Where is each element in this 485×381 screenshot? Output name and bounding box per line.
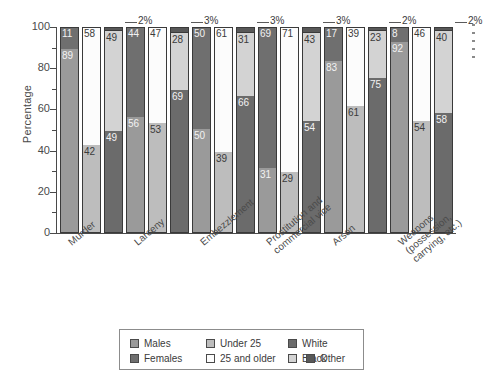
bar-value-label: 47 (150, 28, 161, 39)
bar-value-label: 61 (216, 28, 227, 39)
bar-value-label: 40 (436, 32, 447, 43)
bar-value-label: 29 (282, 173, 293, 184)
bar-value-label: 23 (370, 32, 381, 43)
bar-age: 5347 (148, 27, 167, 233)
bar-value-label: 89 (62, 50, 73, 61)
bar-value-label: 66 (238, 97, 249, 108)
bar-segment: 71 (281, 27, 298, 172)
bar-group: 891142584949 (60, 27, 123, 233)
bar-segment (303, 27, 320, 32)
legend-item-males[interactable]: Males (130, 338, 171, 349)
callout-leader-line (323, 22, 335, 23)
y-tick-label: 100 (26, 20, 50, 32)
bar-segment: 69 (259, 27, 276, 168)
legend-label: Females (144, 353, 182, 364)
other-percent-callout: 2% (125, 15, 152, 26)
legend-label: White (302, 338, 328, 349)
other-percent-callout: 3% (191, 15, 218, 26)
bar-value-label: 39 (216, 153, 227, 164)
bar-segment: 28 (171, 32, 188, 90)
bar-value-label: 49 (106, 32, 117, 43)
legend-swatch-over25 (206, 354, 215, 363)
bar-segment: 40 (435, 30, 452, 112)
bar-segment: 49 (105, 131, 122, 232)
bar-value-label: 50 (194, 28, 205, 39)
bar-race: 6928 (170, 27, 189, 233)
bar-segment: 50 (193, 129, 210, 232)
callout-leader-line (125, 22, 137, 23)
bar-segment: 61 (215, 27, 232, 152)
bar-age: 2971 (280, 27, 299, 233)
bar-value-label: 69 (260, 28, 271, 39)
bar-segment (105, 27, 122, 30)
legend-swatch-white (288, 339, 297, 348)
bar-segment: 44 (127, 27, 144, 117)
bar-segment: 43 (303, 32, 320, 121)
callout-label: 2% (138, 15, 152, 26)
bar-segment: 8 (391, 27, 408, 42)
bar-group: 831761397523 (324, 27, 387, 233)
legend-swatch-under25 (206, 339, 215, 348)
bar-value-label: 69 (172, 91, 183, 102)
chart-canvas: Percentage 020406080100 8911425849495644… (0, 0, 485, 381)
bar-race: 7523 (368, 27, 387, 233)
y-tick-label: 60 (26, 102, 50, 114)
bar-value-label: 31 (260, 169, 271, 180)
bar-segment: 47 (149, 27, 166, 123)
bar-value-label: 54 (304, 122, 315, 133)
bar-race: 4949 (104, 27, 123, 233)
bar-segment: 58 (83, 27, 100, 145)
bar-value-label: 42 (84, 146, 95, 157)
other-percent-callout: 2% (389, 15, 416, 26)
legend-item-females[interactable]: Females (130, 353, 182, 364)
legend-label: Under 25 (220, 338, 261, 349)
bar-value-label: 28 (172, 34, 183, 45)
bar-sex: 5050 (192, 27, 211, 233)
bar-value-label: 39 (348, 28, 359, 39)
callout-leader-line (191, 22, 203, 23)
bar-value-label: 56 (128, 118, 139, 129)
bar-segment (171, 27, 188, 32)
bar-value-label: 53 (150, 124, 161, 135)
y-tick-label: 20 (26, 185, 50, 197)
bar-segment: 50 (193, 27, 210, 129)
bar-value-label: 46 (414, 28, 425, 39)
bar-segment (369, 27, 386, 30)
bar-segment: 46 (413, 27, 430, 121)
legend-item-other[interactable]: Other (306, 353, 345, 364)
callout-label: 3% (204, 15, 218, 26)
other-percent-callout: 3% (323, 15, 350, 26)
legend-item-over25[interactable]: 25 and older (206, 353, 276, 364)
bar-sex: 5644 (126, 27, 145, 233)
bar-value-label: 31 (238, 34, 249, 45)
bar-value-label: 58 (436, 114, 447, 125)
legend-swatch-males (130, 339, 139, 348)
y-tick-label: 40 (26, 144, 50, 156)
legend-item-white[interactable]: White (288, 338, 328, 349)
bar-value-label: 75 (370, 79, 381, 90)
bar-value-label: 58 (84, 28, 95, 39)
bar-sex: 8911 (60, 27, 79, 233)
callout-label: 2% (402, 15, 416, 26)
x-axis-line (56, 233, 456, 234)
bar-value-label: 17 (326, 28, 337, 39)
callout-label: 3% (270, 15, 284, 26)
bar-value-label: 83 (326, 62, 337, 73)
legend-swatch-black (288, 354, 297, 363)
bar-segment: 53 (149, 123, 166, 232)
bar-segment: 89 (61, 49, 78, 232)
cropped-edge-text (470, 18, 485, 76)
chart-legend: MalesUnder 25WhiteFemales25 and olderBla… (119, 329, 364, 370)
bar-value-label: 61 (348, 107, 359, 118)
bar-segment (435, 27, 452, 30)
legend-item-under25[interactable]: Under 25 (206, 338, 261, 349)
bar-value-label: 8 (392, 28, 398, 39)
y-tick-label: 0 (26, 226, 50, 238)
bar-value-label: 49 (106, 132, 117, 143)
bar-segment: 49 (105, 30, 122, 131)
bar-segment: 11 (61, 27, 78, 49)
legend-swatch-females (130, 354, 139, 363)
bar-segment: 39 (347, 27, 364, 106)
bar-age: 4258 (82, 27, 101, 233)
legend-label: Males (144, 338, 171, 349)
